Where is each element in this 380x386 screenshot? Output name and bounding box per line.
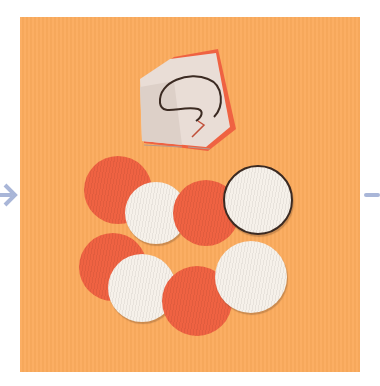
arrow-chevron-icon bbox=[0, 181, 18, 209]
arrow-stub-icon bbox=[364, 191, 380, 199]
paper-circle-white-outlined bbox=[223, 165, 293, 235]
paper-circle-white bbox=[215, 241, 287, 313]
left-arrow-icon bbox=[0, 181, 18, 209]
craft-photo bbox=[20, 17, 360, 372]
folded-paper-spiral bbox=[138, 47, 238, 155]
right-arrow-icon bbox=[364, 191, 380, 199]
